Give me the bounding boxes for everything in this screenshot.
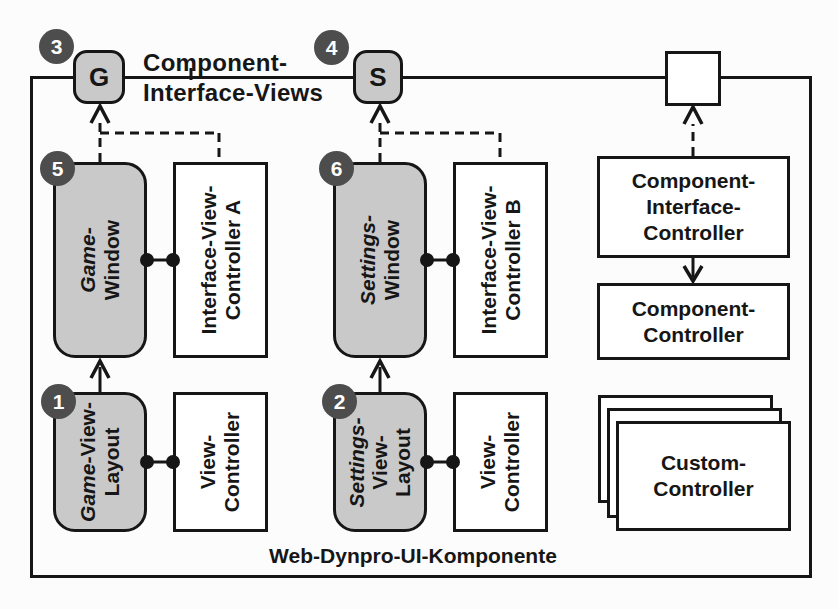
badge-4-number: 4: [326, 36, 338, 60]
badge-1: 1: [41, 384, 76, 419]
connector-settings-window-ivc-b: [422, 255, 459, 266]
connector-settings-layout-view-controller: [422, 457, 459, 468]
badge-5-number: 5: [52, 157, 64, 181]
badge-3: 3: [39, 29, 74, 64]
connector-game-window-ivc-a: [142, 255, 179, 266]
badge-4: 4: [314, 30, 349, 65]
badge-6: 6: [319, 151, 354, 186]
component-interface-views-label: Component- Interface-Views: [143, 48, 323, 108]
port-g-label: G: [89, 62, 109, 93]
component-interface-views-line1: Component-: [143, 49, 287, 76]
connector-game-layout-view-controller: [142, 457, 179, 468]
custom-controller-label: Custom- Controller: [653, 450, 753, 502]
diagram-canvas: Component- Interface-Views G S 3 4 5 6 1…: [0, 0, 838, 609]
port-s: S: [353, 50, 403, 104]
badge-2-number: 2: [334, 390, 346, 414]
custom-controller-box-front: Custom- Controller: [616, 421, 791, 531]
arrowhead-into-s: [371, 106, 389, 123]
port-g: G: [73, 50, 125, 104]
port-square: [665, 51, 721, 106]
arrowhead-into-square-port: [684, 107, 702, 124]
badge-5: 5: [40, 151, 75, 186]
custom-controller-line1: Custom-: [661, 451, 746, 474]
badge-2: 2: [322, 384, 357, 419]
arrowhead-into-g: [91, 106, 109, 123]
badge-6-number: 6: [331, 157, 343, 181]
custom-controller-line2: Controller: [653, 477, 753, 500]
component-interface-views-line2: Interface-Views: [143, 79, 323, 106]
badge-3-number: 3: [51, 35, 63, 59]
port-s-label: S: [369, 62, 386, 93]
badge-1-number: 1: [53, 390, 65, 414]
